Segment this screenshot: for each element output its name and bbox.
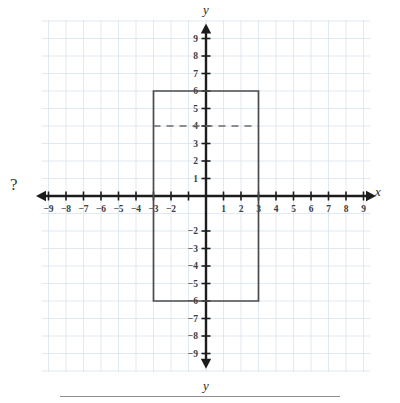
x-axis-tick-label: −8 bbox=[61, 204, 71, 214]
y-axis-tick-label: −9 bbox=[188, 349, 198, 359]
x-axis-label: x bbox=[374, 184, 381, 199]
x-axis-tick-label: −2 bbox=[166, 204, 176, 214]
y-axis-tick-label: −8 bbox=[188, 331, 198, 341]
y-axis-label-top: y bbox=[201, 2, 209, 17]
y-axis-tick-label: −4 bbox=[188, 261, 198, 271]
x-axis-tick-label: 5 bbox=[291, 204, 296, 214]
x-axis-tick-label: −6 bbox=[96, 204, 106, 214]
y-axis-tick-label: −7 bbox=[188, 314, 198, 324]
y-axis-arrow-up bbox=[201, 23, 211, 33]
x-axis-tick-label: 4 bbox=[274, 204, 279, 214]
y-axis-tick-label: 2 bbox=[193, 156, 198, 166]
question-mark-annotation: ? bbox=[10, 176, 18, 193]
x-axis-tick-label: 8 bbox=[344, 204, 349, 214]
x-axis-tick-label: 6 bbox=[309, 204, 314, 214]
x-axis-tick-label: −5 bbox=[113, 204, 123, 214]
y-axis-tick-label: 9 bbox=[193, 34, 198, 44]
x-axis-arrow-left bbox=[36, 191, 46, 201]
x-axis-tick-label: −9 bbox=[43, 204, 53, 214]
bottom-divider bbox=[60, 396, 340, 397]
x-axis-tick-label: 7 bbox=[326, 204, 331, 214]
y-axis-arrow-down bbox=[201, 359, 211, 369]
y-axis-tick-label: 7 bbox=[193, 69, 198, 79]
y-axis-tick-label: 5 bbox=[193, 104, 198, 114]
coordinate-plane-svg: −9−8−7−6−5−4−3−2123456789987654321−2−3−4… bbox=[0, 0, 400, 403]
x-axis-tick-label: 9 bbox=[361, 204, 366, 214]
y-axis-tick-label: −3 bbox=[188, 244, 198, 254]
x-axis-tick-label: −7 bbox=[78, 204, 88, 214]
axes bbox=[36, 23, 376, 368]
y-axis-label-bottom: y bbox=[201, 378, 209, 393]
y-axis-tick-label: −5 bbox=[188, 279, 198, 289]
y-axis-tick-label: 8 bbox=[193, 51, 198, 61]
x-axis-tick-label: 2 bbox=[239, 204, 244, 214]
coordinate-plane-figure: ? −9−8−7−6−5−4−3−2123456789987654321−2−3… bbox=[0, 0, 400, 403]
y-axis-tick-label: 1 bbox=[193, 174, 198, 184]
x-axis-tick-label: −4 bbox=[131, 204, 141, 214]
x-axis-tick-label: 1 bbox=[221, 204, 226, 214]
y-axis-tick-label: 3 bbox=[193, 139, 198, 149]
y-axis-tick-label: −2 bbox=[188, 226, 198, 236]
